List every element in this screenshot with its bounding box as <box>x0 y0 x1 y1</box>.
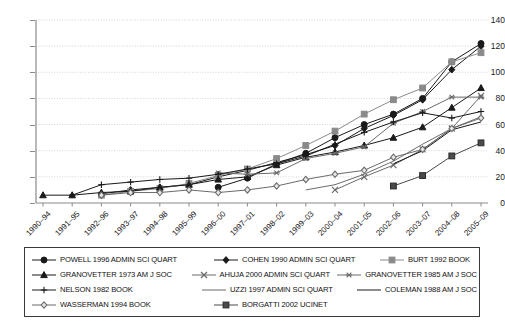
series-line <box>99 115 484 199</box>
legend-row: NELSON 1982 BOOKUZZI 1997 ADMIN SCI QUAR… <box>31 282 477 297</box>
legend-key-icon <box>379 254 405 266</box>
legend-label: POWELL 1996 ADMIN SCI QUART <box>60 255 177 264</box>
y-tick-mark <box>30 203 35 204</box>
series-line <box>98 43 484 198</box>
legend-key-icon <box>201 284 227 296</box>
legend-item[interactable]: WASSERMAN 1994 BOOK <box>31 297 213 312</box>
legend-item[interactable]: GRANOVETTER 1985 AM J SOC <box>336 267 477 282</box>
legend-label: WASSERMAN 1994 BOOK <box>60 300 151 309</box>
legend-item[interactable]: BURT 1992 BOOK <box>379 252 470 267</box>
legend-label: AHUJA 2000 ADMIN SCI QUART <box>220 270 330 279</box>
legend-key-icon <box>31 254 57 266</box>
x-tick-label: 1993–97 <box>106 210 140 244</box>
legend-item[interactable]: BORGATTI 2002 UCINET <box>213 297 379 312</box>
legend-label: BORGATTI 2002 UCINET <box>242 300 328 309</box>
y-tick-mark <box>30 98 35 99</box>
plot-area <box>36 20 488 203</box>
legend-key-icon <box>336 269 362 281</box>
legend-label: GRANOVETTER 1985 AM J SOC <box>365 270 477 279</box>
legend-label: COHEN 1990 ADMIN SCI QUART <box>242 255 355 264</box>
legend-key-icon <box>31 299 57 311</box>
legend-item[interactable]: UZZI 1997 ADMIN SCI QUART <box>201 282 356 297</box>
series-line <box>391 140 484 189</box>
legend-label: BURT 1992 BOOK <box>408 255 470 264</box>
y-tick-mark <box>30 177 35 178</box>
legend-item[interactable]: COLEMAN 1988 AM J SOC <box>356 282 477 297</box>
chart-root: 020406080100120140 1990–941991–951992–96… <box>0 0 505 328</box>
chart-area: 020406080100120140 1990–941991–951992–96… <box>0 0 505 240</box>
plot-svg <box>36 20 488 203</box>
x-tick-label: 2003–07 <box>398 210 432 244</box>
legend-item[interactable]: POWELL 1996 ADMIN SCI QUART <box>31 252 213 267</box>
legend-label: GRANOVETTER 1973 AM J SOC <box>60 270 172 279</box>
legend-key-icon <box>213 254 239 266</box>
y-tick-mark <box>30 20 35 21</box>
legend-row: WASSERMAN 1994 BOOKBORGATTI 2002 UCINET <box>31 297 477 312</box>
y-tick-mark <box>30 125 35 126</box>
legend: POWELL 1996 ADMIN SCI QUARTCOHEN 1990 AD… <box>24 247 480 317</box>
legend-key-icon <box>356 284 382 296</box>
legend-item[interactable]: GRANOVETTER 1973 AM J SOC <box>31 267 191 282</box>
legend-label: UZZI 1997 ADMIN SCI QUART <box>230 285 333 294</box>
x-tick-label: 1992–96 <box>77 210 111 244</box>
legend-row: POWELL 1996 ADMIN SCI QUARTCOHEN 1990 AD… <box>31 252 477 267</box>
y-tick-mark <box>30 72 35 73</box>
legend-key-icon <box>213 299 239 311</box>
x-tick-label: 2002–06 <box>369 210 403 244</box>
legend-item[interactable]: COHEN 1990 ADMIN SCI QUART <box>213 252 379 267</box>
legend-row: GRANOVETTER 1973 AM J SOCAHUJA 2000 ADMI… <box>31 267 477 282</box>
legend-key-icon <box>191 269 217 281</box>
x-tick-label: 1998–02 <box>252 210 286 244</box>
y-tick-mark <box>30 151 35 152</box>
series-line <box>393 122 481 164</box>
legend-label: COLEMAN 1988 AM J SOC <box>385 285 477 294</box>
x-tick-label: 1997–01 <box>223 210 257 244</box>
y-tick-mark <box>30 46 35 47</box>
legend-label: NELSON 1982 BOOK <box>60 285 133 294</box>
legend-key-icon <box>31 284 57 296</box>
legend-item[interactable]: NELSON 1982 BOOK <box>31 282 201 297</box>
legend-key-icon <box>31 269 57 281</box>
legend-item[interactable]: AHUJA 2000 ADMIN SCI QUART <box>191 267 337 282</box>
